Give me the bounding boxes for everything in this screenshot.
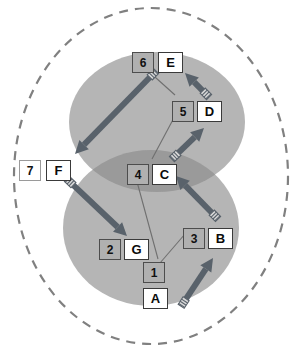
diagram-canvas: 1A3B4C5D6E7F2G xyxy=(0,0,300,351)
node-letter-box-F: F xyxy=(46,160,71,181)
node-letter-box-A: A xyxy=(143,288,168,309)
node-letter-box-D: D xyxy=(197,101,222,122)
node-number-box-7: 7 xyxy=(19,160,41,181)
node-letter-box-B: B xyxy=(208,228,233,249)
node-number-box-2: 2 xyxy=(99,239,121,260)
node-letter-box-C: C xyxy=(152,164,177,185)
node-number-box-6: 6 xyxy=(132,52,154,73)
node-letter-box-E: E xyxy=(158,52,183,73)
node-letter-box-G: G xyxy=(124,239,149,260)
node-number-box-1: 1 xyxy=(143,262,165,283)
node-number-box-3: 3 xyxy=(183,228,205,249)
node-number-box-5: 5 xyxy=(172,101,194,122)
node-number-box-4: 4 xyxy=(127,164,149,185)
